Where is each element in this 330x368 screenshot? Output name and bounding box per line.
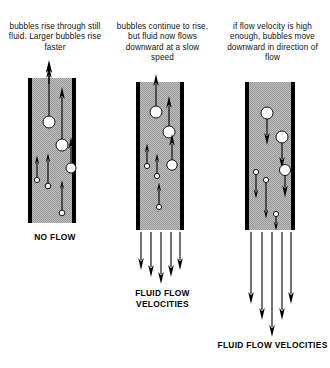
bubble-fast-flow-1 xyxy=(276,131,288,143)
bubble-fast-flow-0 xyxy=(261,107,273,119)
tube-wall-left-fast-flow xyxy=(245,82,249,230)
bubble-fast-flow-4 xyxy=(263,177,268,182)
bubble-slow-flow-2 xyxy=(167,160,177,170)
panel-graphics-no-flow xyxy=(28,60,76,223)
tube-fluid-no-flow xyxy=(32,78,72,223)
bubble-fast-flow-3 xyxy=(253,169,258,174)
bubble-fast-flow-5 xyxy=(273,211,278,216)
panel-graphics-slow-flow xyxy=(136,74,184,284)
tube-fluid-fast-flow xyxy=(249,82,291,230)
tube-wall-left-no-flow xyxy=(28,78,32,223)
label-fluid-flow-velocities-fast: FLUID FLOW VELOCITIES xyxy=(215,340,330,351)
bubble-no-flow-4 xyxy=(45,183,51,189)
bubble-no-flow-1 xyxy=(56,139,68,151)
tube-wall-right-fast-flow xyxy=(291,82,295,230)
bubble-slow-flow-0 xyxy=(150,106,162,118)
label-fluid-flow-velocities-slow: FLUID FLOW VELOCITIES xyxy=(110,288,215,309)
bubble-no-flow-2 xyxy=(66,163,76,173)
bubble-no-flow-3 xyxy=(34,177,39,182)
bubble-slow-flow-3 xyxy=(144,163,149,168)
bubble-no-flow-0 xyxy=(43,116,55,128)
bubble-no-flow-5 xyxy=(59,210,65,216)
bubble-slow-flow-5 xyxy=(156,204,161,209)
tube-wall-left-slow-flow xyxy=(136,82,140,230)
diagram-canvas xyxy=(0,0,330,368)
label-no-flow: NO FLOW xyxy=(0,232,110,243)
bubble-slow-flow-1 xyxy=(163,126,175,138)
bubble-slow-flow-4 xyxy=(154,173,159,178)
tube-wall-right-slow-flow xyxy=(180,82,184,230)
bubble-fast-flow-2 xyxy=(280,165,291,176)
tube-wall-right-no-flow xyxy=(72,78,76,223)
panel-graphics-fast-flow xyxy=(245,82,295,337)
